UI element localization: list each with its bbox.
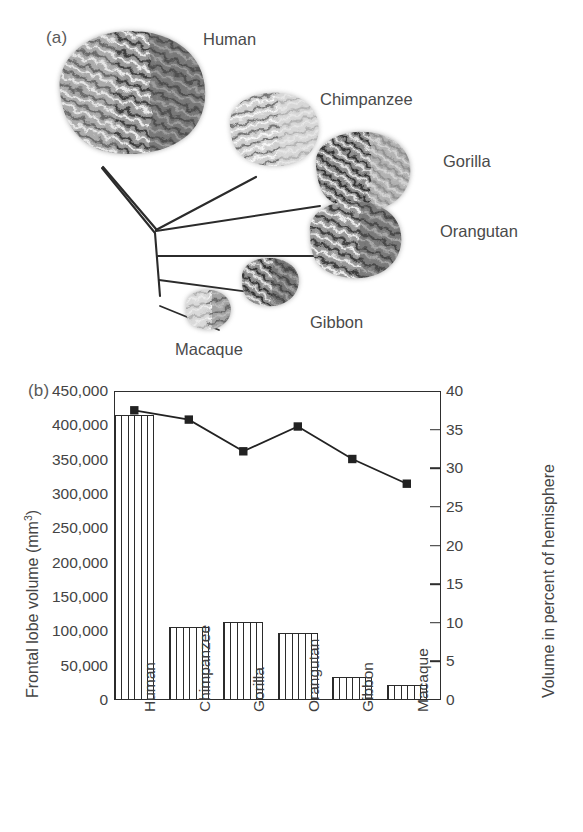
y-tick-label-left-150000: 150,000 xyxy=(52,588,108,606)
y-tick-label-left-200000: 200,000 xyxy=(52,554,108,572)
brain-gibbon xyxy=(238,254,306,310)
x-axis-label-macaque: Macaque xyxy=(414,648,432,712)
y-tick-label-right-20: 20 xyxy=(446,537,463,555)
y-tick-mark-right xyxy=(430,583,441,585)
y-axis-left-title-suffix: ) xyxy=(24,510,41,515)
brain-illustrations xyxy=(0,0,583,368)
y-tick-label-left-100000: 100,000 xyxy=(52,622,108,640)
y-tick-label-left-0: 0 xyxy=(99,691,108,709)
y-tick-label-left-250000: 250,000 xyxy=(52,519,108,537)
y-axis-right-title: Volume in percent of hemisphere xyxy=(540,464,558,698)
brain-macaque xyxy=(182,286,238,334)
y-axis-left-title-superscript: 3 xyxy=(22,515,34,521)
y-axis-left-ticks: 050,000100,000150,000200,000250,000300,0… xyxy=(0,391,108,700)
y-tick-mark-right xyxy=(430,506,441,508)
x-axis-label-orangutan: Orangutan xyxy=(305,639,323,712)
y-tick-label-right-40: 40 xyxy=(446,382,463,400)
panel-a-phylogeny: (a) xyxy=(0,0,583,368)
y-tick-label-left-50000: 50,000 xyxy=(61,657,108,675)
y-axis-left-title-text: Frontal lobe volume (mm xyxy=(24,521,41,698)
y-axis-left-title: Frontal lobe volume (mm3) xyxy=(22,510,42,698)
y-tick-label-left-400000: 400,000 xyxy=(52,416,108,434)
y-tick-label-left-300000: 300,000 xyxy=(52,485,108,503)
y-tick-mark-right xyxy=(430,622,441,624)
y-tick-label-left-350000: 350,000 xyxy=(52,451,108,469)
y-tick-label-right-0: 0 xyxy=(446,691,455,709)
species-label-gibbon: Gibbon xyxy=(310,313,363,332)
species-label-gorilla: Gorilla xyxy=(443,152,491,171)
x-axis-label-gibbon: Gibbon xyxy=(359,662,377,712)
panel-b-chart: (b) 050,000100,000150,000200,000250,0003… xyxy=(0,368,583,832)
brain-gorilla xyxy=(310,128,418,213)
brain-orangutan xyxy=(305,196,408,281)
species-label-human: Human xyxy=(203,30,256,49)
y-tick-label-right-35: 35 xyxy=(446,421,463,439)
bar-human xyxy=(114,415,154,700)
y-tick-mark-right xyxy=(430,429,441,431)
y-tick-label-right-5: 5 xyxy=(446,652,455,670)
y-tick-mark-right xyxy=(430,467,441,469)
figure-brain-frontal-lobe: (a) xyxy=(0,0,583,832)
brain-chimpanzee xyxy=(225,88,328,178)
species-label-macaque: Macaque xyxy=(175,340,243,359)
y-tick-mark-right xyxy=(430,545,441,547)
x-axis-label-human: Human xyxy=(141,662,159,712)
species-label-chimpanzee: Chimpanzee xyxy=(320,90,413,109)
x-axis-label-gorilla: Gorilla xyxy=(250,667,268,712)
y-tick-label-right-30: 30 xyxy=(446,459,463,477)
x-axis-label-chimpanzee: Chimpanzee xyxy=(196,625,214,712)
brain-human xyxy=(55,25,220,165)
species-label-orangutan: Orangutan xyxy=(440,222,518,241)
y-tick-label-right-10: 10 xyxy=(446,614,463,632)
y-tick-label-left-450000: 450,000 xyxy=(52,382,108,400)
y-axis-right-ticks: 0510152025303540 xyxy=(446,391,506,700)
y-tick-label-right-25: 25 xyxy=(446,498,463,516)
y-tick-label-right-15: 15 xyxy=(446,575,463,593)
